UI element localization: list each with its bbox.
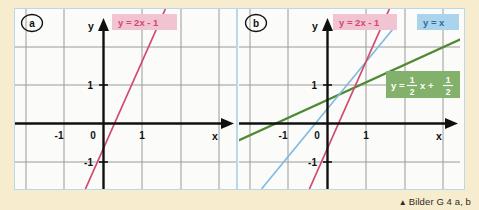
- x-axis-label-a: x: [212, 130, 218, 142]
- equation-label-x-b: y = x: [417, 14, 459, 30]
- equation-label-half-x-plus-half-b: y = 1 2 x + 1 2: [386, 71, 460, 98]
- panel-divider: [236, 9, 238, 189]
- x-axis-label-b: x: [436, 130, 442, 142]
- panel-letter-a: a: [22, 15, 43, 32]
- caption-text: Bilder G 4 a, b: [409, 196, 471, 207]
- fraction-1-denominator: 2: [410, 87, 415, 97]
- x-tick-1-a: 1: [139, 130, 145, 141]
- panel-a: -1 0 1 1 -1 x y a y = 2x - 1: [15, 9, 236, 189]
- y-axis-label-b: y: [312, 20, 318, 32]
- x-tick-1-b: 1: [363, 130, 369, 141]
- figure-root: -1 0 1 1 -1 x y a y = 2x - 1: [0, 0, 479, 210]
- y-tick-minus1-b: -1: [308, 157, 317, 168]
- y-tick-1-a: 1: [87, 80, 93, 91]
- svg-text:y = x: y = x: [423, 17, 445, 28]
- svg-text:b: b: [253, 18, 259, 29]
- caption-triangle-icon: ▲: [399, 198, 407, 207]
- x-tick-minus1-b: -1: [279, 130, 288, 141]
- fraction-2-numerator: 1: [446, 75, 451, 85]
- figure-caption: ▲Bilder G 4 a, b: [399, 196, 471, 207]
- x-tick-0-b: 0: [314, 130, 320, 141]
- axes-a: [15, 18, 234, 189]
- svg-text:x +: x +: [420, 80, 434, 91]
- x-tick-minus1-a: -1: [55, 130, 64, 141]
- fraction-2-denominator: 2: [446, 87, 451, 97]
- axes-b: [239, 18, 458, 189]
- fraction-1-numerator: 1: [410, 75, 415, 85]
- y-tick-1-b: 1: [311, 80, 317, 91]
- svg-text:y =: y =: [391, 80, 405, 91]
- equation-label-2x-minus-1-b: y = 2x - 1: [333, 14, 397, 30]
- svg-text:a: a: [29, 18, 35, 29]
- y-tick-minus1-a: -1: [84, 157, 93, 168]
- equation-label-2x-minus-1-a: y = 2x - 1: [112, 14, 177, 30]
- svg-text:y = 2x - 1: y = 2x - 1: [339, 17, 380, 28]
- y-axis-label-a: y: [88, 20, 94, 32]
- svg-text:y = 2x - 1: y = 2x - 1: [118, 17, 159, 28]
- panel-letter-b: b: [246, 15, 267, 32]
- x-tick-0-a: 0: [90, 130, 96, 141]
- panel-b: -1 0 1 1 -1 x y b y = 2x - 1 y = x: [239, 9, 460, 189]
